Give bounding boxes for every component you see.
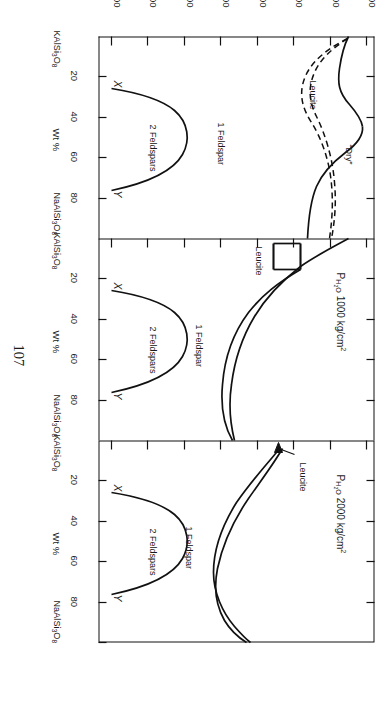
endmember-left-dry: KAlSi3O8 bbox=[50, 30, 60, 67]
field-label-leucite-p1000: Leucite bbox=[253, 246, 262, 275]
condition-label-dry: “Dry” bbox=[343, 144, 352, 164]
ytick-800: 800 bbox=[221, 0, 231, 7]
pressure-label-p1000: PH2O 1000 kg/cm2 bbox=[333, 272, 346, 351]
ytick-1100: 1100 bbox=[331, 0, 341, 7]
solvus-point-y-p1000: Y bbox=[112, 392, 123, 399]
ytick-600: 600 bbox=[148, 0, 158, 7]
scanned-page: X Y Leucite 1 Feldspar 2 Feldspars “Dry”… bbox=[0, 0, 388, 719]
curve-dry-leucite-boundary bbox=[338, 36, 362, 126]
panel-dry-plot bbox=[98, 36, 374, 238]
xtick-40-p2000: 40 bbox=[69, 515, 79, 526]
panel-p1000: X Y PH2O 1000 kg/cm2 Leucite 1 Feldspar … bbox=[98, 238, 374, 440]
xtick-60-p1000: 60 bbox=[69, 353, 79, 364]
curve-p2000-solidus bbox=[213, 452, 276, 642]
ytick-1200: 1200 bbox=[367, 0, 377, 7]
field-label-two-feldspars-p2000: 2 Feldspars bbox=[147, 528, 156, 575]
xaxis-title-p1000: Wt % bbox=[51, 330, 61, 353]
xtick-60-dry: 60 bbox=[69, 151, 79, 162]
field-label-one-feldspar-dry: 1 Feldspar bbox=[215, 122, 224, 165]
solvus-point-y-p2000: Y bbox=[112, 594, 123, 601]
xtick-60-p2000: 60 bbox=[69, 555, 79, 566]
xtick-20-p1000: 20 bbox=[69, 272, 79, 283]
xtick-40-dry: 40 bbox=[69, 111, 79, 122]
endmember-right-p1000: NaAlSi3O8 bbox=[50, 394, 60, 437]
endmember-right-p2000: NaAlSi3O8 bbox=[50, 600, 60, 643]
solvus-point-x-dry: X bbox=[112, 80, 123, 87]
xaxis-title-dry: Wt % bbox=[51, 128, 61, 151]
endmember-right-dry: NaAlSi3O8 bbox=[50, 192, 60, 235]
endmember-left-p1000: KAlSi3O8 bbox=[50, 232, 60, 269]
xtick-80-p2000: 80 bbox=[69, 596, 79, 607]
curve-dry-solidus-upper bbox=[310, 38, 347, 238]
xaxis-title-p2000: Wt % bbox=[51, 532, 61, 555]
curve-p1000-solidus bbox=[221, 269, 300, 440]
endmember-left-p2000: KAlSi3O8 bbox=[50, 434, 60, 471]
xtick-20-p2000: 20 bbox=[69, 474, 79, 485]
ytick-700: 700 bbox=[185, 0, 195, 7]
solvus-point-y-dry: Y bbox=[112, 190, 123, 197]
figure-alkali-feldspar-phase-diagrams: X Y Leucite 1 Feldspar 2 Feldspars “Dry”… bbox=[0, 0, 388, 719]
xtick-20-dry: 20 bbox=[69, 70, 79, 81]
page-number: 107 bbox=[9, 344, 26, 366]
xtick-80-p1000: 80 bbox=[69, 394, 79, 405]
xtick-80-dry: 80 bbox=[69, 192, 79, 203]
panel-p2000: X Y PH2O 2000 kg/cm2 Leucite 1 Feldspar … bbox=[98, 440, 374, 642]
xtick-40-p1000: 40 bbox=[69, 313, 79, 324]
field-label-two-feldspars-p1000: 2 Feldspars bbox=[147, 326, 156, 373]
field-label-one-feldspar-p1000: 1 Feldspar bbox=[193, 324, 202, 367]
ytick-900: 900 bbox=[258, 0, 268, 7]
curve-p1000-liquidus bbox=[230, 238, 348, 440]
ytick-1000: 1000 bbox=[294, 0, 304, 7]
field-label-leucite-dry: Leucite bbox=[307, 80, 316, 109]
field-label-leucite-p2000: Leucite bbox=[297, 462, 306, 491]
panel-dry: X Y Leucite 1 Feldspar 2 Feldspars “Dry”… bbox=[98, 36, 374, 238]
field-label-two-feldspars-dry: 2 Feldspars bbox=[147, 124, 156, 171]
field-label-one-feldspar-p2000: 1 Feldspar bbox=[183, 526, 192, 569]
pressure-label-p2000: PH2O 2000 kg/cm2 bbox=[333, 474, 346, 553]
ytick-500: 500 bbox=[112, 0, 122, 7]
solvus-point-x-p1000: X bbox=[112, 282, 123, 289]
page-rotated-content: X Y Leucite 1 Feldspar 2 Feldspars “Dry”… bbox=[0, 0, 388, 719]
solvus-point-x-p2000: X bbox=[112, 484, 123, 491]
